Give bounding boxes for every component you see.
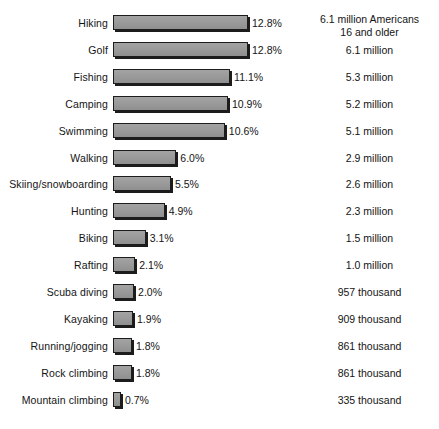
amount-label: 5.2 million <box>300 93 439 115</box>
amount-label: 957 thousand <box>300 281 439 303</box>
category-label: Camping <box>0 93 108 115</box>
bar <box>113 257 135 272</box>
bar <box>113 15 248 30</box>
bar-value-label: 11.1% <box>234 66 263 88</box>
chart-row: Fishing11.1%5.3 million <box>0 66 439 88</box>
category-label: Rock climbing <box>0 362 108 384</box>
amount-label: 6.1 million Americans16 and older <box>300 12 439 35</box>
category-label: Golf <box>0 39 108 61</box>
amount-label: 5.1 million <box>300 120 439 142</box>
bar <box>113 96 228 111</box>
chart-row: Swimming10.6%5.1 million <box>0 120 439 142</box>
chart-row: Rock climbing1.8%861 thousand <box>0 362 439 384</box>
bar <box>113 311 133 326</box>
amount-label-line1: 6.1 million Americans <box>300 13 439 26</box>
amount-label: 6.1 million <box>300 39 439 61</box>
bar-value-label: 10.6% <box>229 120 259 142</box>
bar-value-label: 2.0% <box>138 281 162 303</box>
bar-value-label: 5.5% <box>175 173 199 195</box>
amount-label: 2.9 million <box>300 147 439 169</box>
bar <box>113 392 121 407</box>
bar-value-label: 3.1% <box>150 227 174 249</box>
bar-value-label: 10.9% <box>232 93 262 115</box>
chart-row: Running/jogging1.8%861 thousand <box>0 335 439 357</box>
amount-label: 1.0 million <box>300 254 439 276</box>
bar <box>113 203 165 218</box>
category-label: Skiing/snowboarding <box>0 173 108 195</box>
bar-value-label: 12.8% <box>252 39 282 61</box>
category-label: Biking <box>0 227 108 249</box>
category-label: Swimming <box>0 120 108 142</box>
category-label: Running/jogging <box>0 335 108 357</box>
amount-label: 5.3 million <box>300 66 439 88</box>
chart-row: Camping10.9%5.2 million <box>0 93 439 115</box>
bar <box>113 69 230 84</box>
bar <box>113 150 176 165</box>
amount-label: 2.3 million <box>300 200 439 222</box>
amount-label: 861 thousand <box>300 335 439 357</box>
category-label: Scuba diving <box>0 281 108 303</box>
chart-row: Hunting4.9%2.3 million <box>0 200 439 222</box>
chart-row: Mountain climbing0.7%335 thousand <box>0 389 439 411</box>
amount-label: 861 thousand <box>300 362 439 384</box>
bar-value-label: 0.7% <box>125 389 149 411</box>
chart-row: Skiing/snowboarding5.5%2.6 million <box>0 173 439 195</box>
bar-value-label: 1.8% <box>136 362 160 384</box>
bar-value-label: 4.9% <box>169 200 193 222</box>
bar-value-label: 2.1% <box>139 254 163 276</box>
bar <box>113 230 146 245</box>
bar <box>113 365 132 380</box>
bar <box>113 284 134 299</box>
chart-row: Walking6.0%2.9 million <box>0 147 439 169</box>
chart-row: Kayaking1.9%909 thousand <box>0 308 439 330</box>
amount-label-line2: 16 and older <box>300 26 439 39</box>
category-label: Hiking <box>0 12 108 34</box>
bar-value-label: 6.0% <box>180 147 204 169</box>
bar <box>113 176 171 191</box>
category-label: Kayaking <box>0 308 108 330</box>
amount-label: 1.5 million <box>300 227 439 249</box>
bar <box>113 338 132 353</box>
bar-value-label: 1.8% <box>136 335 160 357</box>
chart-row: Golf12.8%6.1 million <box>0 39 439 61</box>
category-label: Rafting <box>0 254 108 276</box>
bar-chart: Hiking12.8%6.1 million Americans16 and o… <box>0 0 439 429</box>
category-label: Fishing <box>0 66 108 88</box>
category-label: Walking <box>0 147 108 169</box>
bar-value-label: 12.8% <box>252 12 282 34</box>
amount-label: 335 thousand <box>300 389 439 411</box>
chart-row: Scuba diving2.0%957 thousand <box>0 281 439 303</box>
category-label: Mountain climbing <box>0 389 108 411</box>
chart-row: Hiking12.8%6.1 million Americans16 and o… <box>0 12 439 34</box>
category-label: Hunting <box>0 200 108 222</box>
bar <box>113 123 225 138</box>
bar-value-label: 1.9% <box>137 308 161 330</box>
chart-row: Rafting2.1%1.0 million <box>0 254 439 276</box>
amount-label: 909 thousand <box>300 308 439 330</box>
bar <box>113 42 248 57</box>
amount-label: 2.6 million <box>300 173 439 195</box>
chart-row: Biking3.1%1.5 million <box>0 227 439 249</box>
